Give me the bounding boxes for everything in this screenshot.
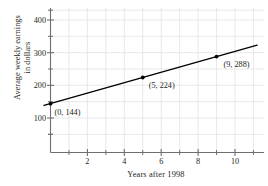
- data-point-marker: [49, 102, 53, 106]
- data-point-marker: [215, 55, 219, 59]
- chart-canvas: [0, 0, 268, 186]
- x-axis-title: Years after 1998: [50, 170, 262, 179]
- axis-lines: [51, 8, 265, 153]
- grid-lines: [51, 8, 265, 153]
- trend-line: [44, 45, 257, 105]
- y-axis-tick-label: 200: [22, 81, 46, 90]
- y-axis-tick-label: 400: [22, 16, 46, 25]
- y-axis-tick-label: 300: [22, 48, 46, 57]
- y-axis-tick-label: 100: [22, 114, 46, 123]
- x-axis-tick-label: 8: [196, 157, 200, 166]
- data-point-label: (9, 288): [224, 60, 250, 69]
- x-axis-tick-label: 4: [122, 157, 126, 166]
- data-point-label: (0, 144): [55, 108, 81, 117]
- data-point-marker: [141, 76, 145, 80]
- chart-figure: Average weekly earnings in dollars Years…: [0, 0, 268, 186]
- x-axis-tick-label: 10: [231, 157, 239, 166]
- data-point-label: (5, 224): [149, 81, 175, 90]
- x-axis-tick-label: 2: [85, 157, 89, 166]
- x-axis-tick-label: 6: [159, 157, 163, 166]
- regression-line: [44, 45, 257, 105]
